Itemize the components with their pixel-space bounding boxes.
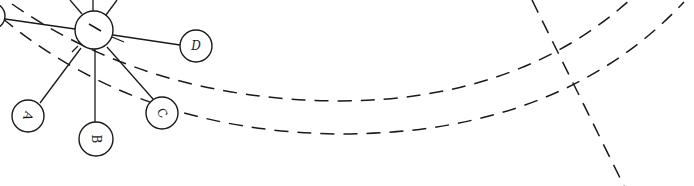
node-C[interactable]: C [146,97,178,129]
spoke-up-right [106,0,117,15]
edge-hub-A [40,48,81,103]
spoke-up-left [70,0,82,14]
node-left-partial[interactable] [0,3,5,29]
node-B-label: B [89,135,103,144]
hub-node[interactable] [75,11,113,49]
dashed-crossing-line [532,0,624,186]
edge-hub-left [5,19,75,29]
node-B[interactable]: B [79,122,113,156]
edge-hub-C [107,47,153,99]
edge-hub-D [113,35,180,45]
hub-circle[interactable] [75,11,113,49]
node-D[interactable]: D [180,30,212,62]
node-D-label: D [190,39,201,53]
spoke-right-short [112,37,124,42]
network-diagram: D A B C [0,0,694,186]
node-A[interactable]: A [12,100,44,132]
spoke-down-left-short [72,46,78,52]
